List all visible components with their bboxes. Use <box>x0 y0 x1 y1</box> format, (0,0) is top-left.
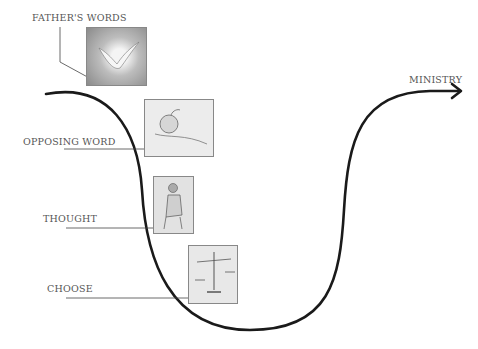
scales-icon <box>189 246 238 304</box>
dove-icon <box>87 28 147 86</box>
dove-illustration <box>86 27 147 86</box>
diagram-canvas <box>0 0 478 349</box>
thinking-man-illustration <box>153 176 194 234</box>
apple-in-hand-illustration <box>144 99 214 157</box>
scales-illustration <box>188 245 238 304</box>
label-thought: THOUGHT <box>43 213 97 224</box>
label-choose: CHOOSE <box>47 283 93 294</box>
label-ministry: MINISTRY <box>409 74 462 85</box>
label-opposing-word: OPPOSING WORD <box>23 136 115 147</box>
thinking-man-icon <box>154 177 194 234</box>
apple-hand-icon <box>145 100 214 157</box>
label-fathers-words: FATHER'S WORDS <box>32 12 127 23</box>
journey-curve <box>46 91 458 330</box>
